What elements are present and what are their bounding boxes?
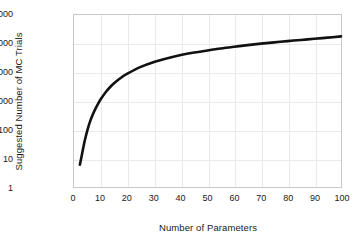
y-tick-label: 100000 (0, 39, 13, 48)
x-axis-title: Number of Parameters (73, 222, 343, 233)
chart-container: Suggested Number of MC Trials 1101001000… (0, 0, 360, 244)
y-tick-label: 100 (0, 126, 13, 135)
y-axis-title: Suggested Number of MC Trials (13, 12, 24, 192)
x-tick-label: 100 (322, 194, 360, 203)
y-tick-label: 1 (0, 184, 13, 193)
series-curve-svg (74, 15, 341, 187)
y-tick-label: 1000 (0, 97, 13, 106)
y-tick-label: 10000 (0, 68, 13, 77)
y-tick-label: 1000000 (0, 10, 13, 19)
y-tick-label: 10 (0, 155, 13, 164)
plot-area (73, 14, 342, 188)
series-curve-path (80, 36, 341, 164)
